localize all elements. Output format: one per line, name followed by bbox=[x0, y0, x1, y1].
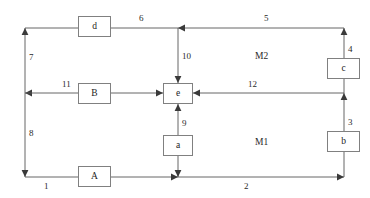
node-label-a: a bbox=[176, 141, 180, 151]
node-box-A[interactable]: A bbox=[78, 166, 111, 187]
node-box-e[interactable]: e bbox=[163, 83, 193, 104]
edge-label-11: 11 bbox=[62, 80, 71, 89]
node-box-a[interactable]: a bbox=[163, 135, 193, 156]
arrow-head-3-up bbox=[341, 93, 348, 100]
edge-label-5: 5 bbox=[264, 14, 269, 23]
edge-label-10: 10 bbox=[182, 52, 191, 61]
region-label-m2: M2 bbox=[255, 52, 268, 62]
arrow-head-into-e-left bbox=[156, 90, 163, 97]
node-label-B: B bbox=[91, 89, 97, 99]
node-box-B[interactable]: B bbox=[78, 83, 111, 104]
edge-label-9: 9 bbox=[182, 119, 187, 128]
edge-label-6: 6 bbox=[139, 14, 144, 23]
node-label-A: A bbox=[91, 172, 98, 182]
edge-label-12: 12 bbox=[248, 80, 257, 89]
edge-label-4: 4 bbox=[348, 45, 353, 54]
node-box-d[interactable]: d bbox=[78, 16, 111, 37]
node-label-c: c bbox=[341, 64, 345, 74]
node-label-b: b bbox=[341, 137, 346, 147]
arrow-head-2-right bbox=[337, 174, 344, 181]
arrow-head-10-down-into-e bbox=[175, 76, 182, 83]
block-flow-diagram: d B A e a c b 1 2 3 4 5 6 7 8 9 10 11 12… bbox=[0, 0, 370, 198]
node-label-e: e bbox=[176, 89, 180, 99]
edge-label-1: 1 bbox=[44, 182, 49, 191]
edge-label-7: 7 bbox=[29, 53, 34, 62]
node-label-d: d bbox=[92, 22, 97, 32]
arrow-head-5-left bbox=[178, 25, 185, 32]
edge-label-3: 3 bbox=[348, 118, 353, 127]
region-label-m1: M1 bbox=[255, 138, 268, 148]
arrow-head-9-up-into-e bbox=[175, 104, 182, 111]
edge-label-2: 2 bbox=[244, 182, 249, 191]
edge-label-8: 8 bbox=[29, 129, 34, 138]
node-box-b[interactable]: b bbox=[327, 131, 360, 152]
arrow-head-7-up bbox=[22, 28, 29, 35]
arrow-head-into-e-right bbox=[193, 90, 200, 97]
node-box-c[interactable]: c bbox=[327, 58, 360, 79]
arrow-head-4-up bbox=[341, 28, 348, 35]
arrow-head-8-down bbox=[22, 170, 29, 177]
